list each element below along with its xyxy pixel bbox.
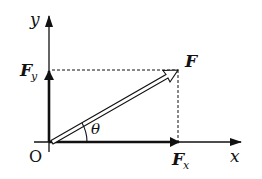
svg-text:y: y — [30, 70, 38, 83]
force-diagram: y x O F F y F x θ — [0, 0, 262, 179]
svg-text:x: x — [183, 159, 190, 172]
fx-label: F x — [171, 149, 190, 172]
y-axis-label: y — [29, 9, 40, 29]
angle-label: θ — [91, 120, 100, 138]
force-label: F — [184, 51, 199, 71]
force-vector — [51, 70, 178, 144]
x-axis-label: x — [230, 146, 240, 166]
origin-label: O — [29, 147, 42, 166]
fy-label: F y — [19, 60, 38, 83]
